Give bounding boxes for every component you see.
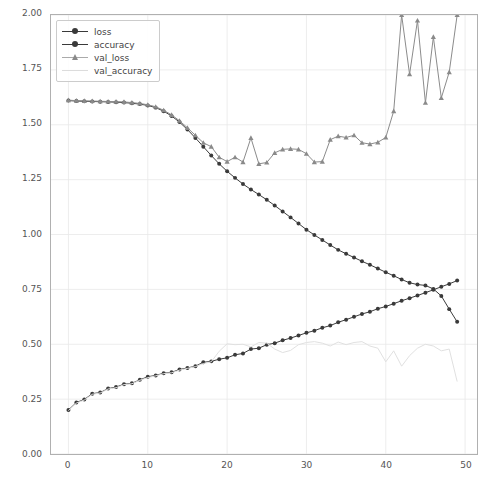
legend-marker-val-accuracy (62, 65, 88, 76)
y-tick-label: 0.50 (0, 339, 42, 349)
y-tick-label: 0.25 (0, 394, 42, 404)
legend-item-accuracy[interactable]: accuracy (62, 38, 152, 51)
series-loss (66, 99, 459, 324)
chart-figure: 0.000.250.500.751.001.251.501.752.00 010… (0, 0, 495, 490)
legend-item-val-accuracy[interactable]: val_accuracy (62, 64, 152, 77)
x-tick-label: 30 (287, 460, 327, 470)
legend-marker-accuracy (62, 39, 88, 50)
legend-label-val-accuracy: val_accuracy (94, 66, 152, 76)
legend-item-val-loss[interactable]: val_loss (62, 51, 152, 64)
series-val_accuracy (68, 342, 457, 411)
y-tick-label: 1.25 (0, 173, 42, 183)
x-tick-label: 0 (48, 460, 88, 470)
legend-label-accuracy: accuracy (94, 40, 135, 50)
y-tick-label: 1.50 (0, 118, 42, 128)
legend-item-loss[interactable]: loss (62, 25, 152, 38)
y-tick-label: 1.00 (0, 229, 42, 239)
y-tick-label: 1.75 (0, 63, 42, 73)
y-tick-label: 0.75 (0, 284, 42, 294)
x-tick-label: 20 (207, 460, 247, 470)
legend-marker-loss (62, 26, 88, 37)
x-tick-label: 10 (127, 460, 167, 470)
legend-label-val-loss: val_loss (94, 53, 129, 63)
y-tick-label: 0.00 (0, 449, 42, 459)
x-tick-label: 50 (446, 460, 486, 470)
x-tick-label: 40 (366, 460, 406, 470)
chart-legend: loss accuracy val_loss val_accuracy (56, 20, 160, 82)
legend-label-loss: loss (94, 27, 111, 37)
series-accuracy (66, 279, 459, 412)
y-tick-label: 2.00 (0, 8, 42, 18)
legend-marker-val-loss (62, 52, 88, 63)
